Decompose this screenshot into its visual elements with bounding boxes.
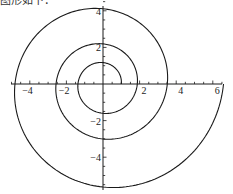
y-tick-label: −4 (90, 152, 101, 163)
spiral-plot: −4−224642−2−4 (0, 0, 233, 194)
x-tick-label: −2 (59, 85, 70, 96)
x-tick-label: 2 (142, 85, 147, 96)
x-tick-label: 4 (178, 85, 183, 96)
y-tick-label: −2 (90, 116, 101, 127)
x-tick-label: 6 (215, 85, 220, 96)
y-tick-label: 4 (96, 6, 101, 17)
x-tick-label: −4 (22, 85, 33, 96)
axes (11, 2, 222, 190)
spiral-curve (15, 8, 224, 187)
y-tick-label: 2 (96, 42, 101, 53)
